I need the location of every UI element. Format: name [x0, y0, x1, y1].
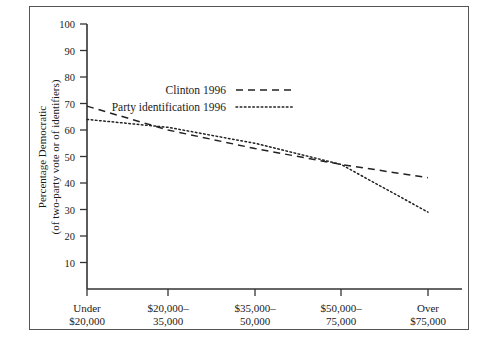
legend: Clinton 1996 Party identification 1996	[112, 84, 294, 114]
y-tick-label-60: 60	[65, 125, 76, 136]
x-tick-label-3-line1: $50,000–	[320, 302, 362, 314]
x-tick-group	[87, 289, 428, 296]
x-tick-label-2-line1: $35,000–	[234, 302, 276, 314]
y-tick-label-10: 10	[65, 258, 76, 269]
y-tick-labels: 100 90 80 70 60 50 40 30 20 10	[59, 19, 75, 269]
x-tick-label-4-line2: $75,000	[410, 315, 446, 327]
y-tick-label-50: 50	[65, 152, 76, 163]
x-tick-label-4-line1: Over	[417, 302, 439, 314]
y-tick-label-40: 40	[65, 178, 76, 189]
y-tick-label-100: 100	[59, 19, 75, 30]
x-tick-label-1-line1: $20,000–	[147, 302, 189, 314]
figure-frame: 100 90 80 70 60 50 40 30 20 10 Percentag…	[29, 6, 469, 330]
axis-group	[87, 24, 462, 289]
x-tick-label-3-line2: 75,000	[326, 315, 357, 327]
y-tick-label-90: 90	[65, 46, 76, 57]
y-axis-title-group: Percentage Democratic (of two-party vote…	[36, 79, 62, 234]
legend-label-clinton: Clinton 1996	[166, 84, 227, 96]
series-line-clinton	[87, 106, 428, 178]
x-tick-label-0-line2: $20,000	[69, 315, 105, 327]
y-axis-title-line1: Percentage Democratic	[36, 106, 48, 208]
series-line-party-identification	[87, 119, 428, 212]
y-tick-label-70: 70	[65, 99, 76, 110]
x-tick-labels: Under $20,000 $20,000– 35,000 $35,000– 5…	[69, 302, 446, 327]
y-tick-group	[80, 24, 87, 263]
chart-canvas: 100 90 80 70 60 50 40 30 20 10 Percentag…	[30, 7, 468, 329]
x-tick-label-1-line2: 35,000	[153, 315, 184, 327]
y-tick-label-30: 30	[65, 205, 76, 216]
y-tick-label-80: 80	[65, 72, 76, 83]
y-tick-label-20: 20	[65, 231, 76, 242]
legend-label-party-identification: Party identification 1996	[112, 101, 227, 114]
x-tick-label-2-line2: 50,000	[240, 315, 271, 327]
figure-caption	[22, 334, 472, 345]
x-tick-label-0-line1: Under	[73, 302, 101, 314]
y-axis-title-line2: (of two-party vote or of identifiers)	[49, 79, 62, 234]
